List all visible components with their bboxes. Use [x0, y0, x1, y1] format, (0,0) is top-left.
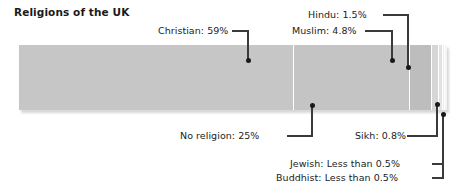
marker-dot-no-religion	[310, 103, 315, 108]
bar-segment-hindu[interactable]	[432, 45, 439, 110]
bar-segment-christian[interactable]	[19, 45, 294, 110]
callout-label-buddhist: Buddhist: Less than 0.5%	[276, 172, 398, 183]
callout-label-jewish: Jewish: Less than 0.5%	[290, 158, 400, 169]
marker-dot-sikh	[435, 102, 440, 107]
chart-title: Religions of the UK	[14, 6, 129, 18]
bar-segment-muslim[interactable]	[410, 45, 432, 110]
marker-dot-hindu	[406, 65, 411, 70]
leader-jewish	[432, 160, 443, 164]
stacked-bar-container	[19, 45, 447, 110]
marker-dot-muslim	[390, 58, 395, 63]
chart-canvas: Religions of the UK	[0, 0, 472, 190]
callout-label-hindu: Hindu: 1.5%	[308, 9, 367, 20]
bar-segment-buddhist[interactable]	[445, 45, 447, 110]
stacked-bar	[19, 45, 447, 110]
leader-buddhist	[432, 160, 443, 178]
marker-dot-christian	[246, 58, 251, 63]
marker-dot-jewish	[441, 112, 446, 117]
callout-label-sikh: Sikh: 0.8%	[355, 130, 406, 141]
bar-segment-no-religion[interactable]	[294, 45, 410, 110]
callout-label-muslim: Muslim: 4.8%	[292, 25, 357, 36]
callout-label-christian: Christian: 59%	[158, 25, 228, 36]
callout-label-no-religion: No religion: 25%	[180, 130, 259, 141]
